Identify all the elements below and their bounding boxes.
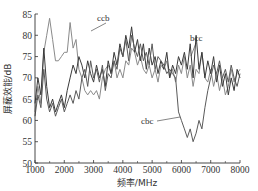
y-tick-label: 60 [23, 116, 33, 126]
y-tick-label: 80 [23, 31, 33, 41]
annotation-ccb: ccb [91, 13, 110, 31]
series-layer [35, 18, 240, 141]
series-line-cbc [35, 35, 240, 141]
shielding-effectiveness-chart: 5055606570758085 10002000300040005000600… [0, 0, 258, 191]
annotation-cbc: cbc [141, 116, 180, 126]
annotation-bcc: bcc [190, 33, 203, 56]
y-tick-label: 85 [23, 10, 33, 20]
y-tick-label: 75 [23, 52, 33, 62]
x-tick-label: 2000 [55, 165, 74, 175]
series-line-bcc [35, 27, 240, 112]
y-ticks: 5055606570758085 [23, 10, 39, 169]
x-tick-label: 3000 [84, 165, 103, 175]
y-tick-label: 65 [23, 95, 33, 105]
y-axis-title: 屏蔽效能/dB [2, 64, 13, 115]
x-tick-label: 1000 [26, 165, 45, 175]
annotation-leader-ccb [91, 23, 106, 31]
x-tick-label: 8000 [231, 165, 250, 175]
series-label-ccb: ccb [97, 13, 110, 23]
x-ticks: 10002000300040005000600070008000 [26, 160, 250, 175]
x-axis-title: 频率/MHz [117, 177, 158, 188]
series-label-bcc: bcc [190, 33, 203, 43]
annotation-leader-cbc [157, 117, 180, 121]
x-tick-label: 5000 [143, 165, 162, 175]
axes-layer [35, 14, 240, 163]
x-tick-label: 4000 [113, 165, 132, 175]
series-label-cbc: cbc [141, 116, 154, 126]
x-tick-label: 7000 [201, 165, 220, 175]
x-tick-label: 6000 [172, 165, 191, 175]
y-tick-label: 55 [23, 137, 33, 147]
y-tick-label: 70 [23, 73, 33, 83]
